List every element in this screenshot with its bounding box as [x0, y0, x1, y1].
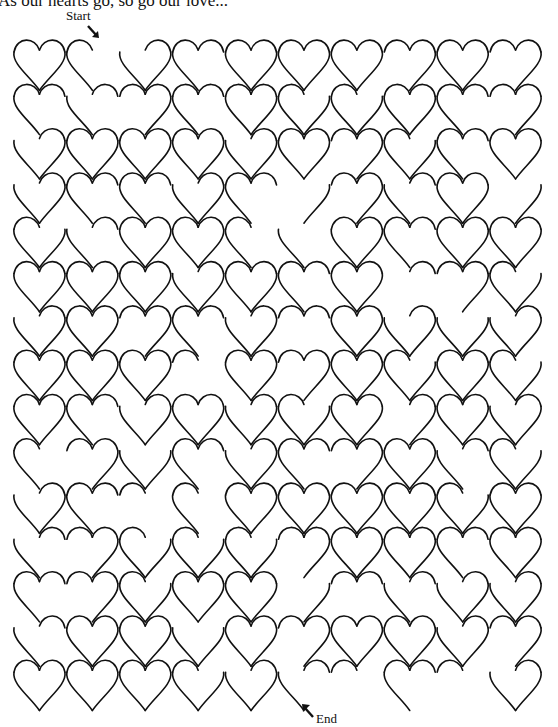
maze-heart-cell: [437, 395, 488, 445]
maze-heart-cell: [331, 306, 382, 356]
maze-heart-cell: [14, 527, 65, 577]
maze-heart-cell: [67, 173, 118, 223]
maze-heart-cell: [490, 217, 541, 267]
maze-heart-cell: [67, 483, 118, 533]
maze-heart-cell: [14, 395, 65, 445]
maze-heart-cell: [14, 306, 65, 356]
maze-heart-cell: [278, 395, 329, 445]
maze-heart-cell: [120, 129, 171, 179]
maze-heart-cell: [384, 84, 435, 134]
maze-heart-cell: [410, 262, 435, 274]
maze-heart-cell: [173, 572, 224, 622]
maze-heart-cell: [331, 350, 382, 400]
maze-heart-cell: [437, 173, 488, 223]
maze-heart-cell: [331, 217, 382, 267]
maze-heart-cell: [490, 660, 541, 710]
maze-heart-cell: [173, 395, 224, 445]
maze-heart-cell: [67, 350, 118, 400]
maze-heart-cell: [384, 660, 435, 710]
maze-heart-cell: [67, 40, 93, 90]
maze-heart-cell: [225, 129, 276, 179]
maze-heart-cell: [384, 217, 435, 267]
maze-heart-cell: [120, 616, 171, 666]
maze-heart-cell: [437, 616, 488, 666]
maze-heart-cell: [490, 40, 541, 90]
maze-heart-cell: [384, 306, 435, 356]
maze-heart-cell: [67, 395, 118, 445]
maze-heart-cell: [490, 527, 541, 577]
maze-heart-cell: [437, 40, 488, 90]
maze-heart-cell: [225, 527, 276, 577]
maze-heart-cell: [173, 129, 224, 179]
maze-heart-cell: [384, 572, 435, 622]
maze-heart-cell: [410, 395, 436, 445]
maze-heart-cell: [14, 350, 65, 400]
maze-heart-cell: [331, 262, 382, 312]
maze-heart-cell: [304, 185, 330, 223]
maze-heart-cell: [437, 350, 488, 400]
maze-heart-cell: [490, 306, 541, 356]
maze-heart-cell: [67, 84, 118, 134]
maze-heart-cell: [120, 572, 171, 622]
maze-heart-cell: [67, 527, 118, 577]
maze-heart-cell: [173, 527, 224, 577]
maze-heart-cell: [384, 350, 435, 400]
maze-heart-cell: [490, 350, 541, 400]
maze-heart-cell: [278, 483, 329, 533]
maze-heart-cell: [437, 483, 488, 533]
maze-heart-cell: [67, 129, 118, 179]
maze-heart-cell: [437, 262, 488, 312]
maze-heart-cell: [437, 439, 488, 489]
maze-heart-cell: [331, 173, 382, 223]
maze-heart-cell: [225, 572, 276, 622]
maze-heart-cell: [331, 40, 382, 90]
maze-heart-cell: [14, 483, 65, 533]
maze-heart-cell: [120, 660, 171, 710]
maze-heart-cell: [225, 616, 276, 666]
maze-heart-cell: [225, 483, 276, 533]
maze-heart-cell: [67, 572, 118, 622]
maze-heart-cell: [331, 616, 382, 666]
heart-maze[interactable]: [0, 0, 558, 727]
maze-heart-cell: [278, 84, 329, 134]
maze-heart-cell: [120, 395, 171, 445]
maze-heart-cell: [120, 306, 171, 356]
maze-heart-cell: [173, 483, 199, 533]
maze-heart-cell: [225, 660, 276, 710]
maze-heart-cell: [384, 439, 435, 489]
maze-heart-cell: [14, 173, 65, 223]
maze-heart-cell: [490, 395, 541, 445]
maze-heart-cell: [14, 129, 65, 179]
maze-heart-cell: [67, 262, 118, 312]
maze-heart-cell: [67, 217, 118, 267]
maze-heart-cell: [437, 84, 488, 134]
maze-heart-cell: [173, 262, 224, 312]
maze-heart-cell: [14, 40, 65, 90]
maze-heart-cell: [173, 84, 224, 134]
maze-heart-cell: [437, 217, 488, 267]
maze-heart-cell: [67, 660, 118, 710]
maze-heart-cell: [490, 439, 541, 489]
maze-heart-cell: [173, 628, 224, 666]
maze-heart-cell: [437, 129, 488, 179]
maze-heart-cell: [67, 306, 118, 356]
maze-heart-cell: [278, 660, 329, 710]
maze-heart-cell: [384, 483, 435, 533]
maze-heart-cell: [331, 129, 382, 179]
maze-heart-cell: [384, 173, 435, 223]
maze-heart-cell: [120, 262, 171, 312]
maze-heart-cell: [14, 262, 65, 312]
maze-heart-cell: [14, 616, 65, 666]
maze-heart-cell: [67, 616, 118, 666]
maze-heart-cell: [120, 451, 171, 489]
maze-heart-cell: [14, 84, 65, 134]
maze-heart-cell: [490, 483, 541, 533]
maze-heart-cell: [490, 572, 541, 622]
maze-heart-cell: [225, 262, 276, 312]
maze-heart-cell: [331, 483, 382, 533]
maze-heart-cell: [225, 217, 251, 267]
maze-heart-cell: [14, 572, 65, 622]
maze-heart-cell: [279, 616, 330, 666]
maze-heart-cell: [331, 395, 382, 445]
maze-heart-cell: [331, 439, 382, 489]
